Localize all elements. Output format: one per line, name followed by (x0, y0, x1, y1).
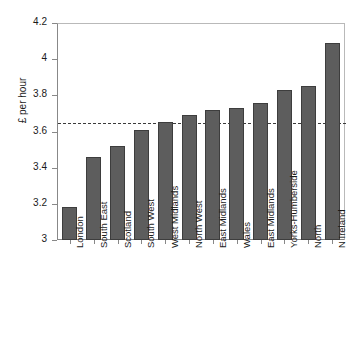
x-axis-tick-label: Scotland (122, 211, 133, 248)
x-axis-tick-label: East Midlands (265, 188, 276, 248)
bar-chart: £ per hour 4.243.83.63.43.23 LondonSouth… (0, 0, 355, 348)
x-axis-tick-mark (332, 240, 333, 244)
x-axis-tick-label: South East (98, 202, 109, 248)
y-axis-tick-label: 3.2 (33, 197, 47, 208)
bar (301, 86, 316, 240)
y-axis-tick-label: 4.2 (33, 16, 47, 27)
y-axis-tick-label: 4 (41, 52, 47, 63)
x-axis-tick-label: Wales (241, 222, 252, 248)
x-axis-tick-label: East Midlands (217, 188, 228, 248)
x-axis-tick-mark (118, 240, 119, 244)
x-axis-tick-mark (213, 240, 214, 244)
x-axis-tick-label: North West (193, 201, 204, 248)
x-axis-tick-mark (237, 240, 238, 244)
y-axis-title: £ per hour (17, 41, 28, 161)
x-axis-tick-label: South West (145, 199, 156, 248)
x-axis-tick-mark (261, 240, 262, 244)
y-axis-tick-mark (52, 240, 57, 241)
x-axis-tick-label: West Midlands (169, 186, 180, 248)
x-axis-tick-label: North (312, 225, 323, 248)
x-axis-tick-label: Yorks-Humberside (288, 170, 299, 248)
bar (229, 108, 244, 240)
x-axis-tick-label: London (74, 216, 85, 248)
y-axis-tick-label: 3.6 (33, 125, 47, 136)
x-axis-tick-mark (284, 240, 285, 244)
x-axis-tick-mark (165, 240, 166, 244)
x-axis-tick-mark (94, 240, 95, 244)
y-axis-tick-label: 3.4 (33, 161, 47, 172)
x-axis-tick-label: N Ireland (336, 209, 347, 248)
x-axis-tick-mark (141, 240, 142, 244)
x-axis-tick-mark (70, 240, 71, 244)
x-axis-tick-mark (189, 240, 190, 244)
y-axis-tick-label: 3.8 (33, 88, 47, 99)
x-axis-tick-mark (308, 240, 309, 244)
y-axis-tick-label: 3 (41, 233, 47, 244)
